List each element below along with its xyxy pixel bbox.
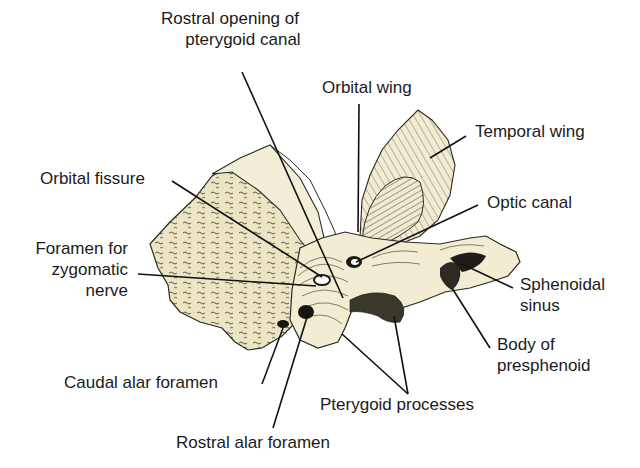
- label-orbital-wing: Orbital wing: [322, 77, 412, 98]
- anatomical-diagram: Rostral opening of pterygoid canal Orbit…: [0, 0, 640, 468]
- label-rostral-opening-pterygoid-canal: Rostral opening of pterygoid canal: [120, 8, 340, 50]
- label-rostral-alar-foramen: Rostral alar foramen: [176, 432, 330, 453]
- label-caudal-alar-foramen: Caudal alar foramen: [64, 372, 218, 393]
- temporal-wing-shape: [360, 110, 455, 246]
- leader-body-presphenoid: [452, 288, 490, 348]
- body-shape: [290, 232, 520, 348]
- label-foramen-zygomatic-nerve: Foramen for zygomatic nerve: [0, 238, 128, 301]
- label-orbital-fissure: Orbital fissure: [40, 168, 145, 189]
- rostral-alar-foramen-opening: [298, 305, 314, 319]
- label-sphenoidal-sinus: Sphenoidal sinus: [520, 274, 605, 316]
- label-optic-canal: Optic canal: [487, 192, 572, 213]
- caudal-alar-foramen-opening: [277, 320, 289, 328]
- label-pterygoid-processes: Pterygoid processes: [320, 394, 474, 415]
- leader-orbital-wing: [358, 104, 359, 232]
- label-body-of-presphenoid: Body of presphenoid: [497, 334, 591, 376]
- label-temporal-wing: Temporal wing: [475, 121, 585, 142]
